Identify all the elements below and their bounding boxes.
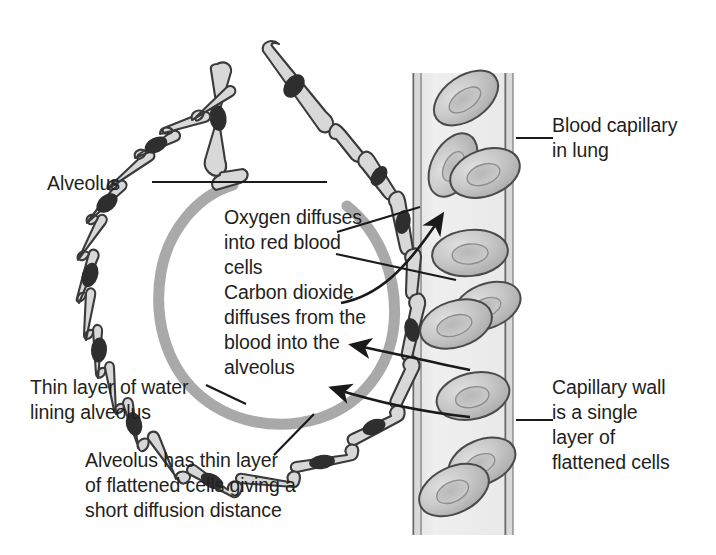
label-carbon-dioxide-diffuses: Carbon dioxide diffuses from the blood i… — [224, 280, 366, 380]
alveolus-wall-cell — [348, 406, 405, 445]
label-thin-layer-of-water: Thin layer of water lining alveolus — [30, 375, 189, 425]
label-alveolus: Alveolus — [47, 171, 120, 196]
alveolus-wall-cell — [291, 445, 358, 472]
alveolus-wall-cell — [263, 41, 333, 132]
alveolus-wall-cell — [135, 131, 180, 159]
label-capillary-wall: Capillary wall is a single layer of flat… — [552, 375, 670, 475]
diagram-canvas: Alveolus Blood capillary in lung Oxygen … — [0, 0, 716, 555]
blood-capillary — [411, 59, 528, 535]
label-alveolus-thin-layer: Alveolus has thin layer of flattened cel… — [85, 448, 296, 523]
label-blood-capillary-in-lung: Blood capillary in lung — [552, 113, 677, 163]
label-oxygen-diffuses: Oxygen diffuses into red blood cells — [224, 205, 362, 280]
alveolus-wall-cell — [358, 152, 396, 200]
alveolus-wall-cell — [389, 191, 413, 254]
alveolus-wall-cell — [329, 124, 363, 162]
